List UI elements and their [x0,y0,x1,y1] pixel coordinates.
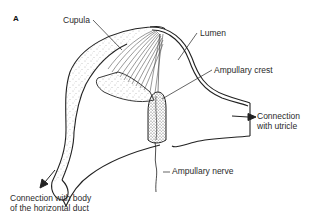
label-cupula: Cupula [63,15,90,25]
label-connection-duct: Connection with body of the horizontal d… [10,193,91,213]
label-connection-utricle: Connection with utricle [257,111,300,131]
label-utricle-line2: with utricle [257,121,300,131]
label-utricle-line1: Connection [257,111,300,121]
panel-letter: A [13,14,19,23]
ampulla-diagram: A Cupula Lumen Ampullary crest Connectio… [0,0,320,221]
utricle-arrow [232,114,256,121]
label-ampullary-crest: Ampullary crest [214,65,273,75]
duct-arrow [40,170,55,188]
ampullary-nerve-line [155,142,157,192]
label-duct-line2: of the horizontal duct [10,203,91,213]
ampullary-crest [148,92,166,143]
label-duct-line1: Connection with body [10,193,91,203]
label-lumen: Lumen [200,28,226,38]
label-ampullary-nerve: Ampullary nerve [172,166,233,176]
